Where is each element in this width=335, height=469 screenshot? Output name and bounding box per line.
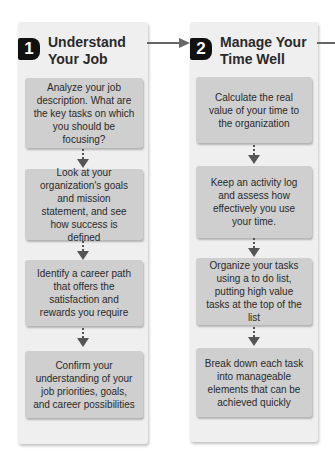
right-arrow-icon (147, 37, 191, 49)
step-1-title-line2: Your Job (48, 51, 126, 68)
step-2-title-line2: Time Well (220, 51, 307, 68)
step-1-task-3: Identify a career path that offers the s… (25, 260, 143, 326)
step-1-header: 1 Understand Your Job (18, 22, 148, 77)
dotted-down-arrow-icon (247, 237, 261, 257)
step-1-badge: 1 (18, 38, 40, 60)
right-arrow-icon (317, 37, 335, 49)
step-1-task-4: Confirm your understanding of your job p… (25, 351, 143, 418)
step-2-badge: 2 (190, 38, 212, 60)
step-2-title-line1: Manage Your (220, 34, 307, 51)
dotted-down-arrow-icon (76, 327, 90, 347)
step-1-task-2: Look at your organization's goals and mi… (25, 169, 143, 240)
dotted-down-arrow-icon (76, 148, 90, 168)
step-2-title: Manage Your Time Well (220, 34, 307, 68)
step-1-title: Understand Your Job (48, 34, 126, 68)
step-2-task-1: Calculate the real value of your time to… (196, 77, 312, 143)
step-1-title-line1: Understand (48, 34, 126, 51)
step-2-task-3: Organize your tasks using a to do list, … (196, 258, 312, 325)
step-2-task-2: Keep an activity log and assess how effe… (196, 166, 312, 238)
dotted-down-arrow-icon (247, 144, 261, 164)
step-2-header: 2 Manage Your Time Well (190, 22, 318, 77)
step-2-task-4: Break down each task into manageable ele… (196, 348, 312, 417)
dotted-down-arrow-icon (247, 326, 261, 346)
step-1-task-1: Analyze your job description. What are t… (25, 78, 143, 148)
dotted-down-arrow-icon (76, 240, 90, 260)
